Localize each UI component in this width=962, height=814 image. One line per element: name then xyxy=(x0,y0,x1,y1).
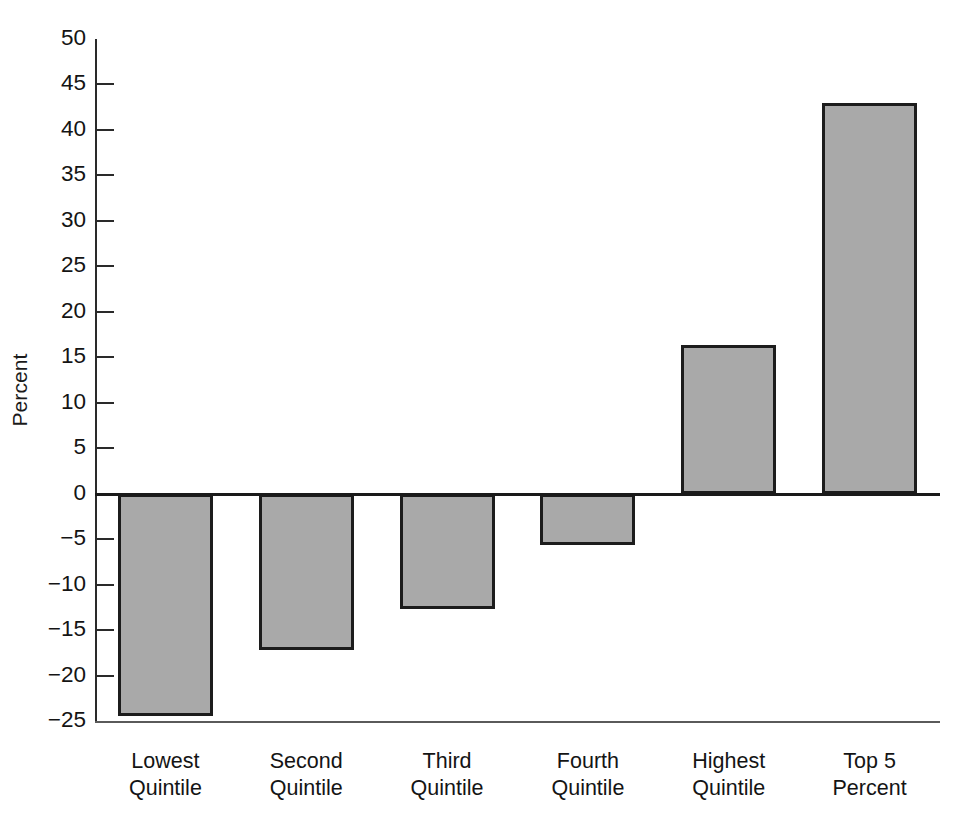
zero-baseline xyxy=(95,493,940,496)
x-axis-label-line1: Fourth xyxy=(518,748,659,775)
y-tick-label: 20 xyxy=(8,300,86,323)
x-axis-label-line1: Third xyxy=(377,748,518,775)
y-tick-label: 0 xyxy=(8,482,86,505)
x-axis-label-line1: Lowest xyxy=(95,748,236,775)
x-axis-label-line2: Quintile xyxy=(377,775,518,802)
x-axis-label-line2: Quintile xyxy=(95,775,236,802)
bar xyxy=(259,494,354,650)
bar xyxy=(118,494,213,717)
y-tick-mark xyxy=(97,447,114,449)
y-tick-label: 30 xyxy=(8,209,86,232)
x-axis-label-line2: Quintile xyxy=(236,775,377,802)
y-tick-mark xyxy=(97,265,114,267)
y-tick-mark xyxy=(97,83,114,85)
y-tick-label: −15 xyxy=(8,618,86,641)
y-tick-mark xyxy=(97,220,114,222)
y-tick-mark xyxy=(97,629,114,631)
y-tick-mark xyxy=(97,584,114,586)
x-axis-label: Top 5Percent xyxy=(799,748,940,802)
y-tick-mark xyxy=(97,356,114,358)
bar xyxy=(822,103,917,494)
x-axis-label-line2: Quintile xyxy=(518,775,659,802)
bar xyxy=(540,494,635,546)
y-tick-label: 40 xyxy=(8,118,86,141)
y-tick-label: −25 xyxy=(8,709,86,732)
x-axis-label: LowestQuintile xyxy=(95,748,236,802)
y-tick-label: −10 xyxy=(8,573,86,596)
axis-bottom-line xyxy=(95,721,940,723)
x-axis-label-line1: Top 5 xyxy=(799,748,940,775)
y-tick-mark xyxy=(97,402,114,404)
bar-chart: Percent 50454035302520151050−5−10−15−20−… xyxy=(0,0,962,814)
x-axis-label-line1: Highest xyxy=(658,748,799,775)
bar xyxy=(681,345,776,493)
x-axis-label-line2: Percent xyxy=(799,775,940,802)
y-tick-mark xyxy=(97,129,114,131)
y-tick-mark xyxy=(97,311,114,313)
x-axis-label: FourthQuintile xyxy=(518,748,659,802)
y-tick-label: 50 xyxy=(8,27,86,50)
y-tick-label: 45 xyxy=(8,72,86,95)
y-tick-label: 10 xyxy=(8,391,86,414)
y-tick-mark xyxy=(97,538,114,540)
y-tick-label: 35 xyxy=(8,163,86,186)
x-axis-label-line1: Second xyxy=(236,748,377,775)
y-tick-label: 5 xyxy=(8,436,86,459)
y-tick-label: 25 xyxy=(8,254,86,277)
x-axis-label: SecondQuintile xyxy=(236,748,377,802)
y-tick-mark xyxy=(97,174,114,176)
y-tick-mark xyxy=(97,675,114,677)
y-tick-label: 15 xyxy=(8,345,86,368)
x-axis-label: ThirdQuintile xyxy=(377,748,518,802)
y-axis-line xyxy=(95,39,97,723)
x-axis-label: HighestQuintile xyxy=(658,748,799,802)
y-tick-label: −20 xyxy=(8,664,86,687)
bars-group xyxy=(0,0,962,814)
x-axis-label-line2: Quintile xyxy=(658,775,799,802)
bar xyxy=(400,494,495,609)
y-tick-label: −5 xyxy=(8,527,86,550)
